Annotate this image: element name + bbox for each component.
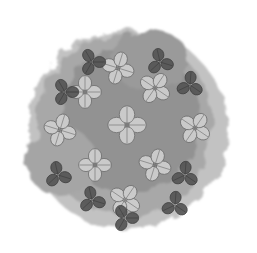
- clover-illustration: [0, 0, 257, 253]
